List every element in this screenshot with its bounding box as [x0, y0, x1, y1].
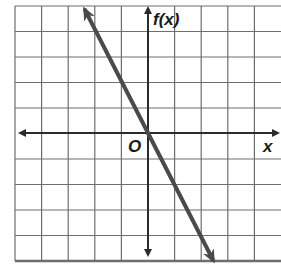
origin-label: O — [128, 137, 141, 156]
x-axis-label: x — [262, 137, 274, 156]
coordinate-plane: f(x) x O — [0, 0, 281, 265]
y-axis-label: f(x) — [153, 10, 180, 29]
